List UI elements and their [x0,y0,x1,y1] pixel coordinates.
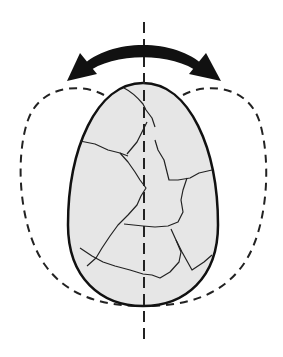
diagram-canvas: Cracked egg rotating about a vertical ax… [0,0,283,357]
